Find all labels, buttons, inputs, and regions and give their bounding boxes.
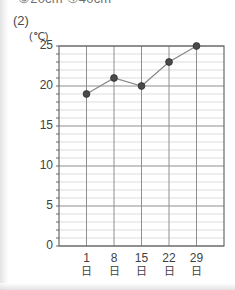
x-axis-tick-number: 8 [99, 252, 129, 265]
y-axis-tick-label: 5 [25, 198, 53, 212]
page-edge-bottom-shadow [0, 283, 235, 290]
y-axis-tick-label: 0 [25, 238, 53, 252]
x-axis-tick-label: 1日 [72, 252, 102, 278]
data-point-marker[interactable] [166, 59, 173, 66]
x-axis-tick-label: 29日 [182, 252, 212, 278]
x-axis-tick-label: 15日 [127, 252, 157, 278]
x-axis-tick-unit: 日 [182, 265, 212, 278]
x-axis-tick-label: 22日 [154, 252, 184, 278]
x-axis-tick-unit: 日 [154, 265, 184, 278]
x-axis-tick-unit: 日 [72, 265, 102, 278]
x-axis-tick-number: 22 [154, 252, 184, 265]
y-axis-tick-label: 20 [25, 78, 53, 92]
data-point-marker[interactable] [138, 83, 145, 90]
x-axis-tick-number: 1 [72, 252, 102, 265]
data-point-marker[interactable] [111, 75, 118, 82]
x-axis-tick-label: 8日 [99, 252, 129, 278]
data-point-marker[interactable] [193, 43, 200, 50]
y-axis-tick-label: 10 [25, 158, 53, 172]
x-axis-tick-unit: 日 [127, 265, 157, 278]
page-edge-left-shadow [0, 0, 9, 290]
y-axis-tick-label: 25 [25, 38, 53, 52]
data-point-marker[interactable] [83, 91, 90, 98]
y-axis-tick-label: 15 [25, 118, 53, 132]
x-axis-tick-unit: 日 [99, 265, 129, 278]
x-axis-tick-number: 15 [127, 252, 157, 265]
x-axis-tick-number: 29 [182, 252, 212, 265]
